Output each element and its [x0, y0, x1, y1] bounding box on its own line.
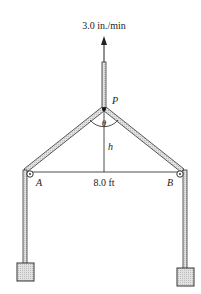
theta-label: θ [102, 118, 107, 128]
pulley-diagram: 3.0 in./min P θ h A B 8.0 ft [0, 0, 201, 294]
right-hanging-rope [183, 170, 187, 269]
left-slanted-rope [24, 107, 104, 172]
pulley-b-icon [177, 171, 183, 177]
vertical-rope [102, 62, 106, 108]
left-block [17, 263, 34, 281]
left-hanging-rope [23, 170, 27, 264]
span-label: 8.0 ft [93, 177, 114, 188]
right-block [177, 268, 194, 286]
knot-p [102, 107, 106, 111]
right-slanted-rope [104, 107, 184, 172]
height-label: h [108, 141, 113, 152]
velocity-arrow-icon [101, 36, 107, 62]
pulley-a-label: A [35, 177, 43, 188]
point-p-label: P [111, 95, 118, 106]
pulley-b-label: B [167, 177, 173, 188]
velocity-label: 3.0 in./min [82, 20, 126, 31]
pulley-a-icon [27, 171, 33, 177]
